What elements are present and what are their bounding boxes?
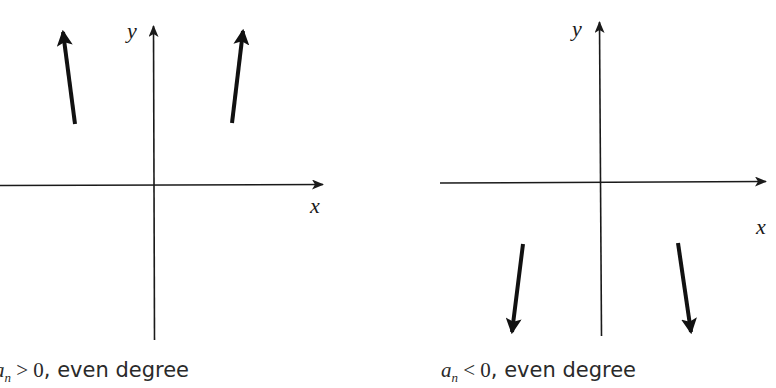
x-axis-label: x [309,193,320,218]
relation-value: 0 [33,358,44,382]
relation-symbol: > [11,358,33,382]
y-axis [154,26,155,340]
diagram-canvas: x y x y [0,0,776,388]
caption-negative-even: an < 0, even degree [441,358,636,386]
x-axis [0,185,323,186]
panel-negative-even: x y [440,16,766,336]
y-axis-label: y [125,18,137,43]
y-axis-label: y [570,16,582,41]
x-axis [440,182,766,184]
degree-description: , even degree [491,358,636,382]
right-end-down-arrow-icon [678,243,691,332]
left-end-down-arrow-icon [512,244,523,332]
right-end-up-arrow-icon [232,31,243,123]
x-axis-label: x [755,214,766,239]
degree-description: , even degree [44,358,189,382]
relation-value: 0 [480,358,491,382]
caption-positive-even: an > 0, even degree [0,358,189,386]
panel-positive-even: x y [0,18,323,340]
y-axis [600,22,602,336]
relation-symbol: < [458,358,480,382]
left-end-up-arrow-icon [63,32,75,124]
leading-coefficient: a [441,358,452,382]
